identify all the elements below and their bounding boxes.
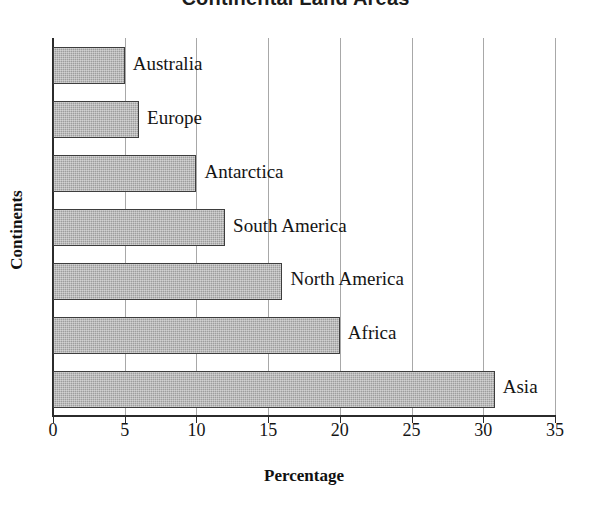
y-axis-title-text: Continents — [7, 190, 27, 269]
gridline-30 — [483, 38, 484, 415]
plot-area: AustraliaEuropeAntarcticaSouth AmericaNo… — [53, 38, 555, 415]
bar-label-north-america: North America — [290, 268, 403, 290]
bar-africa[interactable] — [53, 317, 340, 354]
gridline-25 — [412, 38, 413, 415]
x-tick-label: 10 — [187, 420, 205, 441]
bar-australia[interactable] — [53, 47, 125, 84]
x-tick-label: 30 — [474, 420, 492, 441]
bar-label-australia: Australia — [133, 53, 203, 75]
bar-europe[interactable] — [53, 101, 139, 138]
y-axis-title: Continents — [6, 150, 28, 310]
bar-asia[interactable] — [53, 371, 495, 408]
x-tick-label: 15 — [259, 420, 277, 441]
x-tick-label: 5 — [120, 420, 129, 441]
bar-label-europe: Europe — [147, 107, 202, 129]
chart-title: Continental Land Areas — [0, 0, 591, 10]
bar-north-america[interactable] — [53, 263, 282, 300]
x-tick-label: 0 — [49, 420, 58, 441]
x-axis-title: Percentage — [53, 466, 555, 486]
bar-south-america[interactable] — [53, 209, 225, 246]
gridline-35 — [555, 38, 556, 415]
bar-label-south-america: South America — [233, 215, 346, 237]
bar-antarctica[interactable] — [53, 155, 196, 192]
bar-label-asia: Asia — [503, 376, 538, 398]
x-tick-label: 20 — [331, 420, 349, 441]
bar-label-antarctica: Antarctica — [204, 161, 283, 183]
x-tick-label: 35 — [546, 420, 564, 441]
bar-label-africa: Africa — [348, 322, 397, 344]
x-axis-line — [52, 415, 556, 417]
x-tick-label: 25 — [403, 420, 421, 441]
